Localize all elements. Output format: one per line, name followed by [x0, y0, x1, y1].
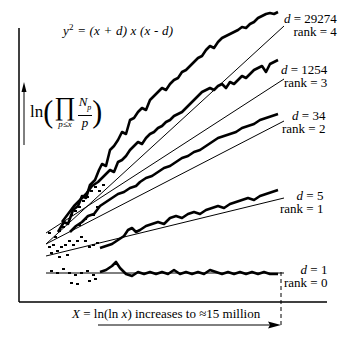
x-label-var: X — [72, 306, 80, 321]
data-trace-rank-2 — [70, 114, 278, 232]
curve-rank-text: rank = 4 — [284, 25, 337, 38]
x-axis-label: X = ln(ln x) increases to ≈15 million — [72, 306, 260, 322]
curve-label-rank-4: d = 29274 rank = 4 — [284, 12, 337, 38]
curve-rank-text: rank = 3 — [281, 76, 327, 89]
fit-line-rank-1 — [46, 198, 284, 256]
y-label-product-sub: p≤x — [58, 119, 71, 129]
fit-lines — [46, 26, 284, 273]
y-label-numerator: Np — [78, 95, 93, 116]
product-symbol-icon: ∏ — [54, 95, 75, 119]
equation-rhs: = (x + d) x (x - d) — [74, 23, 174, 38]
x-label-rest: ) increases to ≈15 million — [127, 306, 260, 321]
y-label-num-sub: p — [87, 103, 91, 112]
y-arrow-head-icon — [22, 82, 27, 92]
chart-plot — [0, 0, 351, 351]
y-axis-label: ln ( ∏ p≤x Np p ) — [30, 95, 102, 130]
curve-label-rank-0: d = 1 rank = 0 — [284, 263, 327, 289]
fit-line-rank-4 — [46, 26, 284, 244]
y-label-close-paren: ) — [92, 97, 102, 129]
y-label-open-paren: ( — [43, 97, 53, 129]
x-label-eq: = ln(ln — [80, 306, 122, 321]
y-label-num-var: N — [79, 94, 88, 109]
y-label-ln: ln — [30, 102, 43, 122]
fit-line-rank-2 — [46, 121, 284, 244]
y-label-fraction: Np p — [78, 95, 93, 130]
y-label-denominator: p — [82, 116, 89, 130]
curve-label-rank-3: d = 1254 rank = 3 — [281, 63, 327, 89]
data-trace-rank-0 — [100, 262, 278, 276]
curve-equation: y2 = (x + d) x (x - d) — [63, 22, 173, 39]
curve-rank-text: rank = 2 — [282, 122, 325, 135]
curve-rank-text: rank = 1 — [280, 202, 323, 215]
curve-label-rank-1: d = 5 rank = 1 — [280, 189, 323, 215]
data-traces — [58, 12, 278, 276]
data-trace-rank-1 — [100, 190, 278, 248]
curve-rank-text: rank = 0 — [284, 276, 327, 289]
y-label-product: ∏ p≤x — [54, 95, 75, 129]
curve-label-rank-2: d = 34 rank = 2 — [282, 109, 325, 135]
